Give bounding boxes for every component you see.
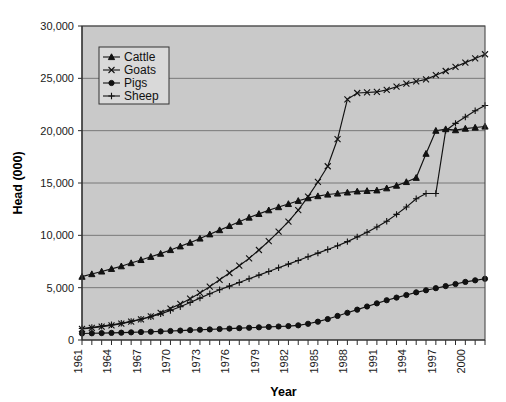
- marker-circle: [158, 329, 163, 334]
- livestock-line-chart: 05,00010,00015,00020,00025,00030,000 196…: [0, 0, 506, 402]
- marker-circle: [256, 325, 261, 330]
- marker-circle: [296, 323, 301, 328]
- y-axis-title: Head (000): [11, 151, 25, 214]
- x-tick-label: 1982: [278, 349, 290, 373]
- marker-circle: [119, 330, 124, 335]
- marker-circle: [168, 328, 173, 333]
- legend-label: Goats: [124, 63, 156, 77]
- marker-circle: [237, 326, 242, 331]
- y-tick-label: 25,000: [40, 72, 74, 84]
- marker-circle: [345, 310, 350, 315]
- marker-circle: [305, 321, 310, 326]
- marker-circle: [335, 313, 340, 318]
- marker-circle: [315, 319, 320, 324]
- x-tick-label: 1976: [219, 349, 231, 373]
- marker-circle: [197, 327, 202, 332]
- marker-circle: [453, 281, 458, 286]
- marker-circle: [207, 327, 212, 332]
- marker-circle: [325, 316, 330, 321]
- x-tick-label: 1961: [72, 349, 84, 373]
- x-tick-label: 1994: [396, 349, 408, 373]
- marker-circle: [433, 286, 438, 291]
- marker-circle: [443, 283, 448, 288]
- chart-container: 05,00010,00015,00020,00025,00030,000 196…: [0, 0, 506, 402]
- marker-circle: [394, 295, 399, 300]
- x-tick-label: 1985: [308, 349, 320, 373]
- x-tick-label: 1997: [426, 349, 438, 373]
- y-tick-label: 20,000: [40, 125, 74, 137]
- marker-circle: [138, 329, 143, 334]
- marker-circle: [148, 329, 153, 334]
- y-tick-label: 0: [68, 334, 74, 346]
- marker-circle: [109, 330, 114, 335]
- marker-circle: [404, 292, 409, 297]
- marker-circle: [266, 324, 271, 329]
- marker-circle: [188, 328, 193, 333]
- marker-circle: [129, 330, 134, 335]
- x-tick-label: 1964: [101, 349, 113, 373]
- marker-circle: [227, 326, 232, 331]
- marker-circle: [423, 288, 428, 293]
- marker-circle: [463, 279, 468, 284]
- x-tick-label: 1970: [160, 349, 172, 373]
- marker-circle: [217, 326, 222, 331]
- marker-circle: [99, 330, 104, 335]
- marker-circle: [473, 278, 478, 283]
- chart-legend: CattleGoatsPigsSheep: [99, 47, 169, 104]
- y-tick-label: 5,000: [46, 282, 74, 294]
- y-tick-label: 10,000: [40, 229, 74, 241]
- marker-circle: [246, 325, 251, 330]
- x-tick-label: 1991: [367, 349, 379, 373]
- marker-circle: [355, 307, 360, 312]
- marker-circle: [364, 304, 369, 309]
- marker-circle: [89, 331, 94, 336]
- marker-circle: [276, 324, 281, 329]
- x-axis-title: Year: [270, 385, 297, 399]
- y-tick-label: 15,000: [40, 177, 74, 189]
- marker-circle: [384, 298, 389, 303]
- x-tick-label: 2000: [455, 349, 467, 373]
- y-tick-label: 30,000: [40, 20, 74, 32]
- marker-circle: [178, 328, 183, 333]
- marker-circle: [374, 301, 379, 306]
- x-tick-label: 1979: [249, 349, 261, 373]
- x-tick-label: 1988: [337, 349, 349, 373]
- marker-circle: [286, 323, 291, 328]
- legend-label: Pigs: [124, 76, 147, 90]
- marker-circle: [414, 290, 419, 295]
- legend-label: Cattle: [124, 50, 156, 64]
- marker-circle: [109, 80, 114, 85]
- x-tick-label: 1967: [131, 349, 143, 373]
- legend-label: Sheep: [124, 89, 159, 103]
- x-tick-label: 1973: [190, 349, 202, 373]
